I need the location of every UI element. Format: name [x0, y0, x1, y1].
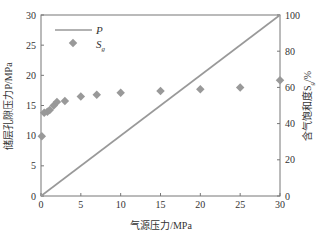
y-tick-label: 15 — [26, 100, 36, 111]
y2-tick-label: 100 — [285, 10, 300, 21]
series-sg-scatter — [38, 76, 285, 141]
y-tick-label: 25 — [26, 40, 36, 51]
x-tick-label: 30 — [275, 199, 285, 210]
y-tick-label: 0 — [31, 191, 36, 202]
y-tick-label: 5 — [31, 160, 36, 171]
sg-data-point — [93, 90, 101, 98]
x-tick-label: 20 — [195, 199, 205, 210]
sg-data-point — [196, 85, 204, 93]
p-line — [41, 15, 280, 196]
x-tick-label: 5 — [78, 199, 83, 210]
sg-data-point — [116, 89, 124, 97]
x-tick-label: 15 — [156, 199, 166, 210]
sg-data-point — [61, 97, 69, 105]
chart-svg: 051015202530 051015202530 020406080100 P… — [0, 0, 322, 236]
y-tick-label: 10 — [26, 130, 36, 141]
y2-tick-label: 80 — [285, 46, 295, 57]
y-tick-label: 20 — [26, 70, 36, 81]
y-tick-label: 30 — [26, 10, 36, 21]
x-tick-label: 10 — [116, 199, 126, 210]
y2-tick-label: 40 — [285, 118, 295, 129]
sg-data-point — [77, 92, 85, 100]
x-tick-label: 0 — [39, 199, 44, 210]
y2-tick-label: 60 — [285, 82, 295, 93]
sg-data-point — [236, 83, 244, 91]
chart-container: 051015202530 051015202530 020406080100 P… — [0, 0, 322, 236]
legend-label-p: P — [95, 24, 103, 36]
sg-data-point — [156, 87, 164, 95]
x-axis-label: 气源压力/MPa — [130, 219, 192, 231]
y-axis-right-label: 含气饱和度Sg/% — [301, 71, 316, 141]
series-p-line — [41, 15, 280, 196]
legend: P Sg — [55, 24, 106, 53]
sg-data-point — [276, 76, 284, 84]
legend-diamond-swatch — [69, 39, 77, 47]
y2-tick-label: 0 — [285, 191, 290, 202]
sg-data-point — [38, 132, 46, 140]
legend-label-sg: Sg — [96, 38, 106, 53]
y-axis-left-label: 储层孔隙压力P/MPa — [2, 62, 14, 150]
x-tick-label: 25 — [235, 199, 245, 210]
y2-tick-label: 20 — [285, 154, 295, 165]
